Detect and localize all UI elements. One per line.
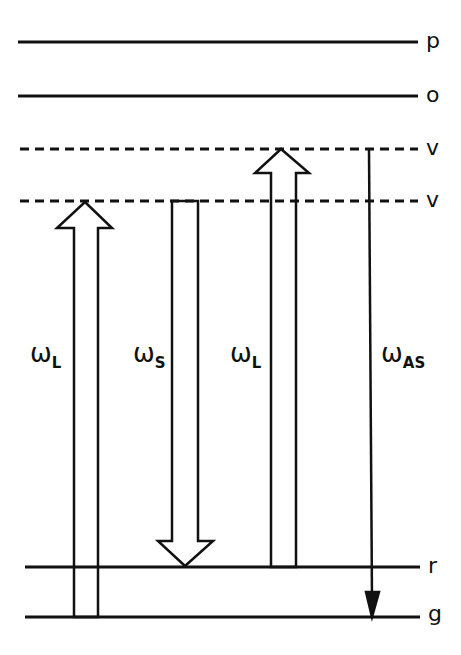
omega-s-label: ωS: [133, 340, 166, 371]
omega-l-arrow-1: [57, 202, 112, 617]
level-label-o: o: [426, 84, 439, 106]
omega-as-label: ωAS: [381, 340, 425, 371]
omega-as-arrow-shaft: [369, 149, 372, 600]
level-label-v-lower: v: [426, 189, 439, 211]
omega-l-arrow-2: [255, 149, 309, 567]
omega-s-arrow: [158, 201, 213, 566]
omega-l-label-1: ωL: [30, 340, 61, 371]
energy-level-diagram: [0, 0, 461, 655]
omega-l-label-2: ωL: [230, 340, 261, 371]
omega-as-arrowhead: [366, 592, 379, 617]
level-label-v-upper: v: [426, 137, 439, 159]
level-label-g: g: [428, 603, 442, 625]
level-label-p: p: [426, 30, 440, 52]
level-label-r: r: [428, 555, 437, 577]
